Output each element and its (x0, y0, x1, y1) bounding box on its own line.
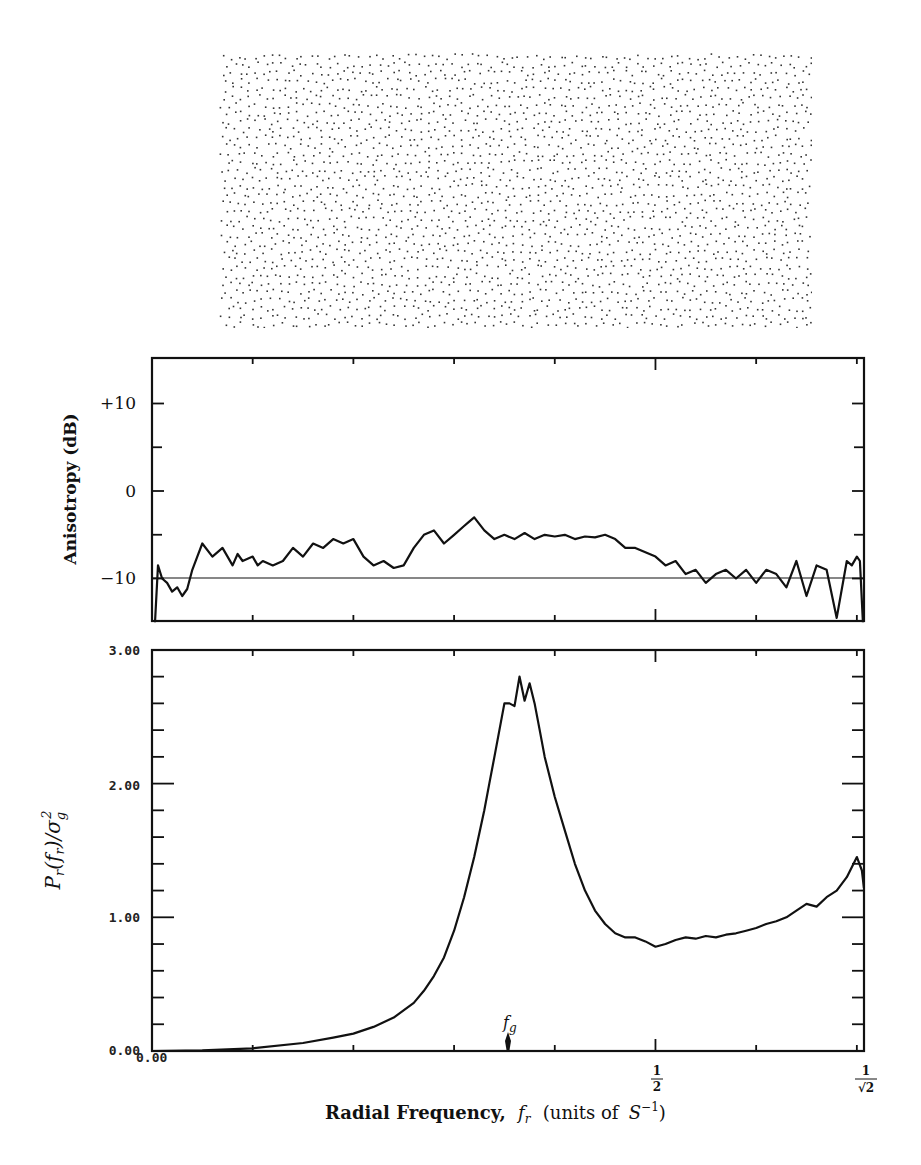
svg-text:fg: fg (502, 1013, 517, 1035)
ytick-label-1: 1.00 (109, 910, 140, 925)
figure-plots: +10 0 −10 Anisotropy (dB) 3.00 2.00 1.00… (0, 0, 921, 1165)
x-axis-title: Radial Frequency, fr (units of S−1) (325, 1100, 666, 1127)
xtick-label-one-over-root-two: 1 √2 (855, 1064, 877, 1095)
ytick-label-0: 0 (125, 481, 136, 501)
power-axis-ticks (152, 650, 864, 1051)
svg-text:1: 1 (862, 1064, 870, 1078)
xtick-label-one-half: 1 2 (651, 1064, 663, 1094)
anisotropy-axis-title: Anisotropy (dB) (60, 413, 80, 565)
xtick-label-0: 0.00 (136, 1050, 167, 1065)
svg-text:2: 2 (653, 1080, 661, 1094)
svg-text:1: 1 (653, 1064, 661, 1078)
ytick-label-3: 3.00 (109, 643, 140, 658)
anisotropy-curve (155, 517, 863, 622)
ytick-label-2: 2.00 (109, 778, 140, 793)
power-plot-frame (152, 650, 864, 1051)
ytick-label-plus10: +10 (100, 393, 136, 413)
power-spectrum-curve (152, 677, 864, 1051)
ytick-label-minus10: −10 (100, 568, 136, 588)
power-axis-title: Pr(fr)/σg2 (39, 811, 68, 891)
fg-annotation: fg (502, 1013, 517, 1050)
svg-text:√2: √2 (858, 1081, 874, 1095)
power-spectrum-panel: 3.00 2.00 1.00 0.00 0.00 1 2 1 √2 fg Pr(… (39, 643, 877, 1127)
anisotropy-panel: +10 0 −10 Anisotropy (dB) (60, 358, 864, 622)
